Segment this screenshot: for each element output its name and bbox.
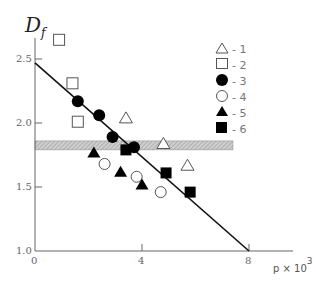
- y-tick-label: 1.0: [16, 245, 32, 256]
- x-axis-title: p × 103: [273, 256, 313, 274]
- legend-item-1: - 1: [216, 43, 246, 56]
- open-square-icon: [217, 59, 228, 69]
- legend-item-3: - 3: [216, 74, 246, 88]
- y-tick-label: 2.0: [16, 117, 32, 128]
- open-square-marker: [54, 34, 65, 45]
- svg-text:- 6: - 6: [232, 123, 246, 136]
- open-square-marker: [67, 78, 78, 89]
- y-axis-title: Df: [24, 13, 48, 40]
- x-ticks: 0 4 8: [31, 244, 251, 266]
- open-circle-icon: [217, 91, 228, 102]
- svg-text:- 2: - 2: [232, 59, 246, 72]
- open-circle-marker: [131, 171, 142, 182]
- legend-item-6: - 6: [216, 122, 246, 136]
- open-circle-marker: [99, 158, 110, 169]
- filled-square-marker: [161, 167, 172, 178]
- filled-square-marker: [185, 187, 196, 198]
- filled-square-icon: [216, 122, 227, 133]
- open-circle-marker: [155, 187, 166, 198]
- legend: - 1 - 2 - 3 - 4 - 5 - 6: [216, 43, 246, 136]
- scatter-chart: Df 2.5 2.0 1.5 1.0 0 4 8 p × 103 - 1 - 2: [0, 0, 316, 287]
- y-ticks: 2.5 2.0 1.5 1.0: [16, 53, 42, 256]
- x-tick-label: 4: [138, 255, 144, 266]
- x-tick-label: 0: [31, 255, 37, 266]
- filled-circle-marker: [72, 95, 84, 107]
- open-square-marker: [72, 116, 83, 127]
- svg-text:- 5: - 5: [232, 107, 246, 120]
- filled-circle-icon: [216, 74, 228, 86]
- x-tick-label: 8: [245, 255, 251, 266]
- y-tick-label: 1.5: [16, 181, 32, 192]
- legend-item-4: - 4: [217, 91, 247, 105]
- open-triangle-icon: [216, 43, 228, 53]
- legend-item-5: - 5: [216, 106, 246, 120]
- filled-circle-marker: [107, 131, 119, 143]
- filled-circle-marker: [93, 109, 105, 121]
- svg-text:- 1: - 1: [232, 43, 246, 56]
- filled-square-marker: [120, 144, 131, 155]
- svg-text:- 3: - 3: [232, 75, 246, 88]
- svg-text:- 4: - 4: [232, 91, 246, 104]
- data-points: [54, 34, 196, 197]
- filled-triangle-marker: [114, 166, 127, 177]
- legend-item-2: - 2: [217, 59, 247, 73]
- y-tick-label: 2.5: [16, 53, 32, 64]
- open-triangle-marker: [181, 159, 194, 170]
- fit-line: [35, 63, 249, 251]
- open-triangle-marker: [119, 112, 132, 123]
- filled-triangle-icon: [216, 106, 228, 116]
